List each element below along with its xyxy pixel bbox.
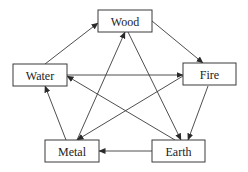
wood-label: Wood (111, 15, 139, 29)
fire-label: Fire (200, 68, 219, 82)
node-metal: Metal (45, 140, 99, 162)
node-wood: Wood (98, 10, 152, 32)
node-fire: Fire (183, 63, 236, 85)
five-elements-diagram: Wood Water Fire Metal Earth (0, 0, 248, 172)
arrow-fire-to-metal (77, 76, 183, 140)
node-earth: Earth (152, 140, 205, 162)
arrow-metal-to-water (45, 86, 66, 140)
arrow-water-to-wood (45, 23, 98, 64)
arrow-fire-to-earth (188, 86, 208, 140)
node-water: Water (13, 64, 67, 86)
earth-label: Earth (166, 145, 192, 159)
edges-layer (45, 21, 208, 151)
water-label: Water (26, 69, 54, 83)
arrow-wood-to-earth (128, 32, 181, 140)
metal-label: Metal (58, 145, 87, 159)
arrow-earth-to-water (67, 76, 175, 140)
arrow-wood-to-fire (152, 21, 203, 63)
